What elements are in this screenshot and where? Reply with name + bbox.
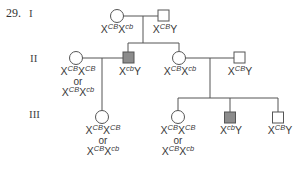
genotype-label-i-1: XCBXcb: [101, 24, 133, 35]
affected-male-symbol-iii-3: [225, 112, 236, 123]
genotype-option-2: XCBXcb: [161, 146, 196, 157]
genotype-label-ii-4: XCBY: [228, 66, 252, 77]
genotype-label-iii-1: XCBXCB or XCBXcb: [86, 125, 121, 157]
genotype-option-2: XCBXcb: [86, 146, 121, 157]
male-symbol-iii-4: [273, 112, 284, 123]
affected-male-symbol-ii-2: [123, 52, 134, 63]
male-symbol-i-2: [158, 10, 169, 21]
male-symbol-ii-4: [234, 52, 245, 63]
genotype-label-ii-2: XcbY: [119, 66, 141, 77]
genotype-label-ii-3: XCBXcb: [164, 66, 196, 77]
genotype-option-2: XCBXcb: [61, 87, 96, 98]
genotype-label-i-2: XCBY: [153, 24, 177, 35]
genotype-label-iii-4: XCBY: [268, 125, 292, 136]
female-symbol-ii-1: [70, 52, 83, 65]
pedigree-chart: [0, 0, 296, 170]
female-symbol-ii-3: [173, 52, 186, 65]
female-symbol-iii-1: [96, 111, 109, 124]
genotype-label-iii-2: XCBXCB or XCBXcb: [161, 125, 196, 157]
genotype-label-ii-1: XCBXCB or XCBXcb: [61, 66, 96, 98]
genotype-label-iii-3: XcbY: [220, 125, 242, 136]
female-symbol-iii-2: [172, 111, 185, 124]
female-symbol-i-1: [111, 10, 124, 23]
